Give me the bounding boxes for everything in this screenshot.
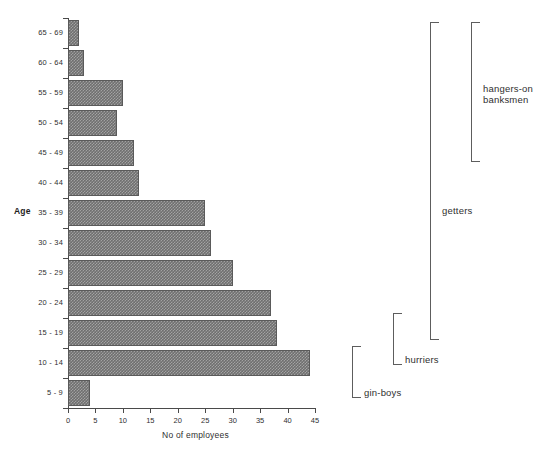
y-axis-title: Age [14, 206, 31, 216]
x-axis-tick-label: 25 [193, 416, 217, 425]
x-axis-tick [315, 408, 316, 413]
bars-layer [68, 18, 315, 408]
y-axis-tick [63, 258, 68, 259]
bar-row [68, 290, 315, 316]
bracket-label-hangers-on-line1: hangers-on [483, 83, 533, 94]
x-axis-title: No of employees [162, 430, 229, 440]
x-axis-tick [260, 408, 261, 413]
y-axis-tick [63, 18, 68, 19]
y-axis-tick [63, 348, 68, 349]
y-axis-tick-label: 60 - 64 [38, 58, 63, 67]
x-axis-tick [205, 408, 206, 413]
bar [68, 170, 139, 196]
bar-row [68, 320, 315, 346]
x-axis-tick-label: 5 [83, 416, 107, 425]
bar [68, 50, 84, 76]
y-axis-tick-label: 25 - 29 [38, 268, 63, 277]
bar-row [68, 110, 315, 136]
bracket-label-getters: getters [442, 205, 472, 216]
bar [68, 350, 310, 376]
bar-row [68, 230, 315, 256]
y-axis-tick [63, 228, 68, 229]
y-axis-tick [63, 168, 68, 169]
y-axis-tick-label: 30 - 34 [38, 238, 63, 247]
bar [68, 80, 123, 106]
bar-row [68, 80, 315, 106]
y-axis-tick [63, 78, 68, 79]
y-axis-tick [63, 318, 68, 319]
bracket-getters [430, 22, 439, 340]
bar [68, 20, 79, 46]
y-axis-tick [63, 108, 68, 109]
x-axis-tick [233, 408, 234, 413]
bar-row [68, 200, 315, 226]
bracket-hurriers [393, 313, 402, 365]
y-axis-tick [63, 48, 68, 49]
y-axis-tick [63, 378, 68, 379]
bracket-label-gin-boys: gin-boys [364, 387, 402, 398]
bar [68, 200, 205, 226]
bracket-label-hangers-on-line2: banksmen [483, 94, 533, 105]
y-axis-tick-label: 20 - 24 [38, 298, 63, 307]
y-axis-tick-label: 15 - 19 [38, 328, 63, 337]
x-axis-tick [288, 408, 289, 413]
y-axis-tick [63, 138, 68, 139]
x-axis-tick-label: 10 [111, 416, 135, 425]
bar-row [68, 140, 315, 166]
y-axis-tick-label: 10 - 14 [38, 358, 63, 367]
y-axis-tick-label: 45 - 49 [38, 148, 63, 157]
x-axis-title-wrap: No of employees [0, 430, 527, 440]
bar-row [68, 350, 315, 376]
bar [68, 260, 233, 286]
x-axis-tick-label: 0 [56, 416, 80, 425]
bracket-label-hangers-on: hangers-on banksmen [483, 83, 533, 105]
bar [68, 230, 211, 256]
x-axis-tick [95, 408, 96, 413]
x-axis-tick [178, 408, 179, 413]
x-axis-tick-label: 35 [248, 416, 272, 425]
bar-row [68, 260, 315, 286]
y-axis-tick-label: 50 - 54 [38, 118, 63, 127]
bar-row [68, 170, 315, 196]
y-axis-tick [63, 288, 68, 289]
bracket-hangers-on [471, 22, 480, 162]
x-axis-tick-label: 45 [303, 416, 327, 425]
bar [68, 380, 90, 406]
x-axis-tick-label: 15 [138, 416, 162, 425]
bar [68, 290, 271, 316]
x-axis-tick-label: 20 [166, 416, 190, 425]
y-axis-tick-label: 35 - 39 [38, 208, 63, 217]
bracket-gin-boys [352, 346, 361, 398]
bracket-label-hurriers: hurriers [405, 354, 439, 365]
y-axis-tick-label: 55 - 59 [38, 88, 63, 97]
bar-row [68, 20, 315, 46]
x-axis-tick-label: 40 [276, 416, 300, 425]
bar [68, 110, 117, 136]
x-axis-line [68, 408, 316, 409]
y-axis-tick-label: 40 - 44 [38, 178, 63, 187]
bar-row [68, 380, 315, 406]
bar [68, 140, 134, 166]
x-axis-tick [150, 408, 151, 413]
bar-row [68, 50, 315, 76]
bar [68, 320, 277, 346]
x-axis-tick-label: 30 [221, 416, 245, 425]
y-axis-tick-label: 65 - 69 [38, 28, 63, 37]
x-axis-tick [68, 408, 69, 413]
y-axis-tick [63, 198, 68, 199]
y-axis-tick-label: 5 - 9 [47, 388, 63, 397]
x-axis-tick [123, 408, 124, 413]
